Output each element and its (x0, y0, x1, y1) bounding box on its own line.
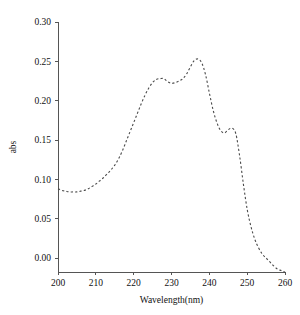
x-tick-label: 200 (51, 278, 66, 288)
y-tick-label: 0.15 (34, 135, 51, 145)
x-tick-label: 250 (240, 278, 255, 288)
x-tick-labels: 200210220230240250260 (51, 278, 293, 288)
y-tick-label: 0.10 (34, 175, 51, 185)
y-tick-label: 0.20 (34, 96, 51, 106)
y-tick-label: 0.25 (34, 57, 51, 67)
x-tick-label: 210 (89, 278, 104, 288)
y-axis-title: abs (8, 140, 18, 153)
x-tick-label: 240 (202, 278, 217, 288)
x-tick-label: 260 (278, 278, 293, 288)
absorbance-spectrum-chart: 0.000.050.100.150.200.250.30 20021022023… (0, 0, 300, 315)
plot-area: 0.000.050.100.150.200.250.30 20021022023… (34, 17, 292, 288)
y-tick-label: 0.05 (34, 214, 51, 224)
absorbance-series-line (58, 59, 285, 272)
y-tick-label: 0.30 (34, 17, 51, 27)
x-axis-title: Wavelength(nm) (140, 295, 204, 306)
y-tick-label: 0.00 (34, 253, 51, 263)
x-tick-label: 220 (127, 278, 142, 288)
x-tick-label: 230 (164, 278, 179, 288)
chart-canvas: 0.000.050.100.150.200.250.30 20021022023… (0, 0, 300, 315)
y-tick-labels: 0.000.050.100.150.200.250.30 (34, 17, 51, 263)
